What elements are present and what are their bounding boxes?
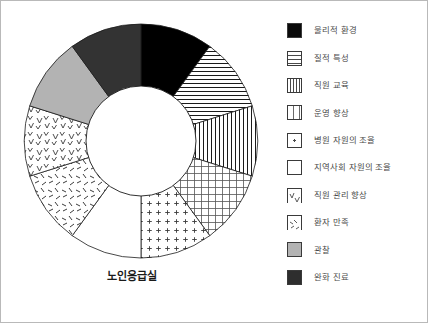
legend-swatch-solid-gray-icon xyxy=(287,242,302,257)
legend-item-community-resource-coordination[interactable]: 지역사회 자원의 조율 xyxy=(287,154,425,181)
donut-segments xyxy=(24,24,257,258)
legend-item-quality-attributes[interactable]: 질적 특성 xyxy=(287,44,425,71)
legend-label: 물리적 환경 xyxy=(314,26,357,34)
scatter-dash-icon xyxy=(288,218,301,231)
legend-swatch-scatter-v-icon xyxy=(287,188,302,203)
legend-label: 운영 향상 xyxy=(314,109,349,117)
legend-swatch-solid-black-icon xyxy=(287,23,302,38)
chart-card: 노인응급실 물리적 환경 질적 특성 직원 교육 운영 향상 병원 자원의 조율… xyxy=(0,0,428,323)
scatter-v-icon xyxy=(288,191,301,204)
donut-chart-area: 노인응급실 xyxy=(1,1,263,311)
legend-swatch-solid-dark-icon xyxy=(287,270,302,285)
legend-item-physical-environment[interactable]: 물리적 환경 xyxy=(287,17,425,44)
legend-item-staff-education[interactable]: 직원 교육 xyxy=(287,72,425,99)
legend-swatch-grid-crosshatch-icon xyxy=(287,105,302,120)
legend-item-staff-management-improvement[interactable]: 직원 관리 향상 xyxy=(287,181,425,208)
legend-swatch-blank-white-icon xyxy=(287,160,302,175)
legend-label: 환자 만족 xyxy=(314,218,349,226)
legend-item-hospital-resource-coordination[interactable]: 병원 자원의 조율 xyxy=(287,127,425,154)
chart-title: 노인응급실 xyxy=(1,267,263,283)
legend-label: 직원 교육 xyxy=(314,81,349,89)
legend-item-observation[interactable]: 관찰 xyxy=(287,236,425,263)
legend-label: 질적 특성 xyxy=(314,54,349,62)
chart-legend: 물리적 환경 질적 특성 직원 교육 운영 향상 병원 자원의 조율 지역사회 … xyxy=(287,17,425,291)
donut-hole xyxy=(86,86,196,196)
legend-item-palliative-care[interactable]: 완화 진료 xyxy=(287,264,425,291)
donut-chart xyxy=(19,19,263,263)
legend-label: 관찰 xyxy=(314,246,330,254)
legend-label: 완화 진료 xyxy=(314,273,349,281)
legend-swatch-horizontal-lines-icon xyxy=(287,51,302,66)
legend-label: 직원 관리 향상 xyxy=(314,191,367,199)
legend-label: 지역사회 자원의 조율 xyxy=(314,163,391,171)
legend-label: 병원 자원의 조율 xyxy=(314,136,375,144)
legend-swatch-dot-plus-icon xyxy=(287,133,302,148)
legend-swatch-vertical-lines-icon xyxy=(287,78,302,93)
legend-item-patient-satisfaction[interactable]: 환자 만족 xyxy=(287,209,425,236)
legend-item-operations-improvement[interactable]: 운영 향상 xyxy=(287,99,425,126)
legend-swatch-scatter-dash-icon xyxy=(287,215,302,230)
